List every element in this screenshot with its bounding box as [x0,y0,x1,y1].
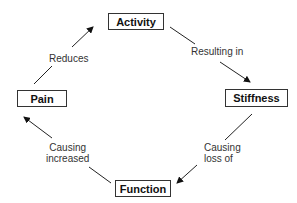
edge-pain-activity-tail [34,66,52,84]
edge-label-resulting-in: Resulting in [191,46,243,57]
edge-pain-activity-head [72,27,93,47]
edge-label-causing-loss-of: Causing loss of [204,142,241,164]
node-pain: Pain [17,90,67,107]
edge-activity-stiffness-head [220,62,250,82]
edge-stiffness-function-tail [225,114,252,140]
node-stiffness: Stiffness [225,89,288,107]
edge-label-reduces: Reduces [49,53,88,64]
edge-function-pain-tail [89,167,111,183]
edge-stiffness-function-head [177,165,197,183]
edge-label-causing-increased: Causing increased [46,142,89,164]
edge-function-pain-head [24,117,52,138]
node-activity: Activity [108,13,164,30]
edge-activity-stiffness-tail [170,27,195,44]
node-function: Function [115,180,171,197]
